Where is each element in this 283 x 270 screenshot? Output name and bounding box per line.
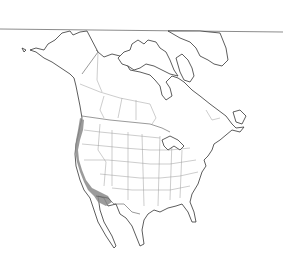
landmass [22, 31, 246, 248]
header-rule [0, 29, 283, 32]
newfoundland [233, 110, 246, 124]
range-map [0, 0, 283, 270]
baffin-island [176, 54, 194, 82]
aleutian-islands [22, 48, 26, 52]
